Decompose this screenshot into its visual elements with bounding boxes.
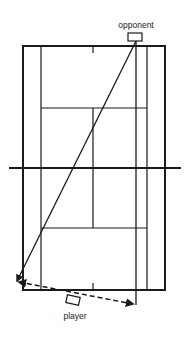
- player-marker: [66, 295, 80, 306]
- court-svg: [0, 0, 194, 337]
- opponent-label: opponent: [118, 20, 153, 30]
- opponent-crosscourt-shot: [17, 41, 136, 281]
- shot-paths: [17, 41, 136, 305]
- tennis-court-diagram: opponent player: [0, 0, 194, 337]
- opponent-marker: [128, 33, 142, 41]
- court-lines: [9, 46, 181, 290]
- player-label: player: [63, 311, 86, 321]
